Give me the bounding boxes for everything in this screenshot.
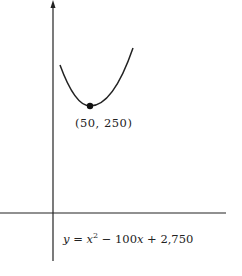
eq-mid: − 100 [98, 232, 137, 246]
vertex-label: (50, 250) [75, 116, 132, 130]
vertex-point [87, 103, 93, 109]
parabola-curve [60, 48, 133, 106]
y-axis-arrow-icon [51, 0, 56, 8]
eq-tail: + 2,750 [143, 232, 193, 246]
eq-equals: = [70, 232, 87, 246]
equation-label: y = x2 − 100x + 2,750 [63, 231, 193, 246]
